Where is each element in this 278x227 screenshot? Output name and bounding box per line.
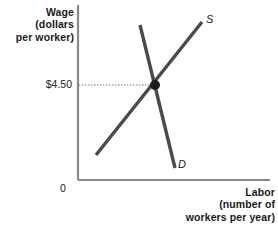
- supply-demand-chart: Wage (dollars per worker) Labor (number …: [0, 0, 278, 227]
- supply-curve: [96, 22, 202, 155]
- demand-curve: [140, 25, 175, 168]
- demand-curve-label: D: [178, 158, 186, 171]
- equilibrium-point-marker: [150, 80, 160, 90]
- origin-label: 0: [60, 182, 66, 194]
- y-axis-tick-label-wage: $4.50: [28, 78, 72, 90]
- supply-curve-label: S: [206, 13, 213, 26]
- y-axis-title: Wage (dollars per worker): [0, 6, 74, 43]
- x-axis-title: Labor (number of workers per year): [150, 186, 275, 223]
